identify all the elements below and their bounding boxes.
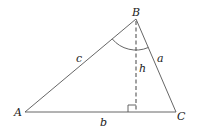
vertex-label-b: B (131, 6, 140, 19)
triangle-diagram: B A C c a b h (0, 0, 199, 133)
side-label-c: c (76, 52, 82, 65)
angle-arc-b (112, 39, 148, 50)
altitude-label-h: h (139, 62, 146, 75)
right-angle-marker (128, 105, 136, 112)
side-label-a: a (157, 52, 164, 65)
side-c (25, 19, 136, 112)
vertex-label-a: A (13, 106, 22, 119)
side-label-b: b (100, 116, 107, 129)
vertex-label-c: C (177, 110, 186, 123)
